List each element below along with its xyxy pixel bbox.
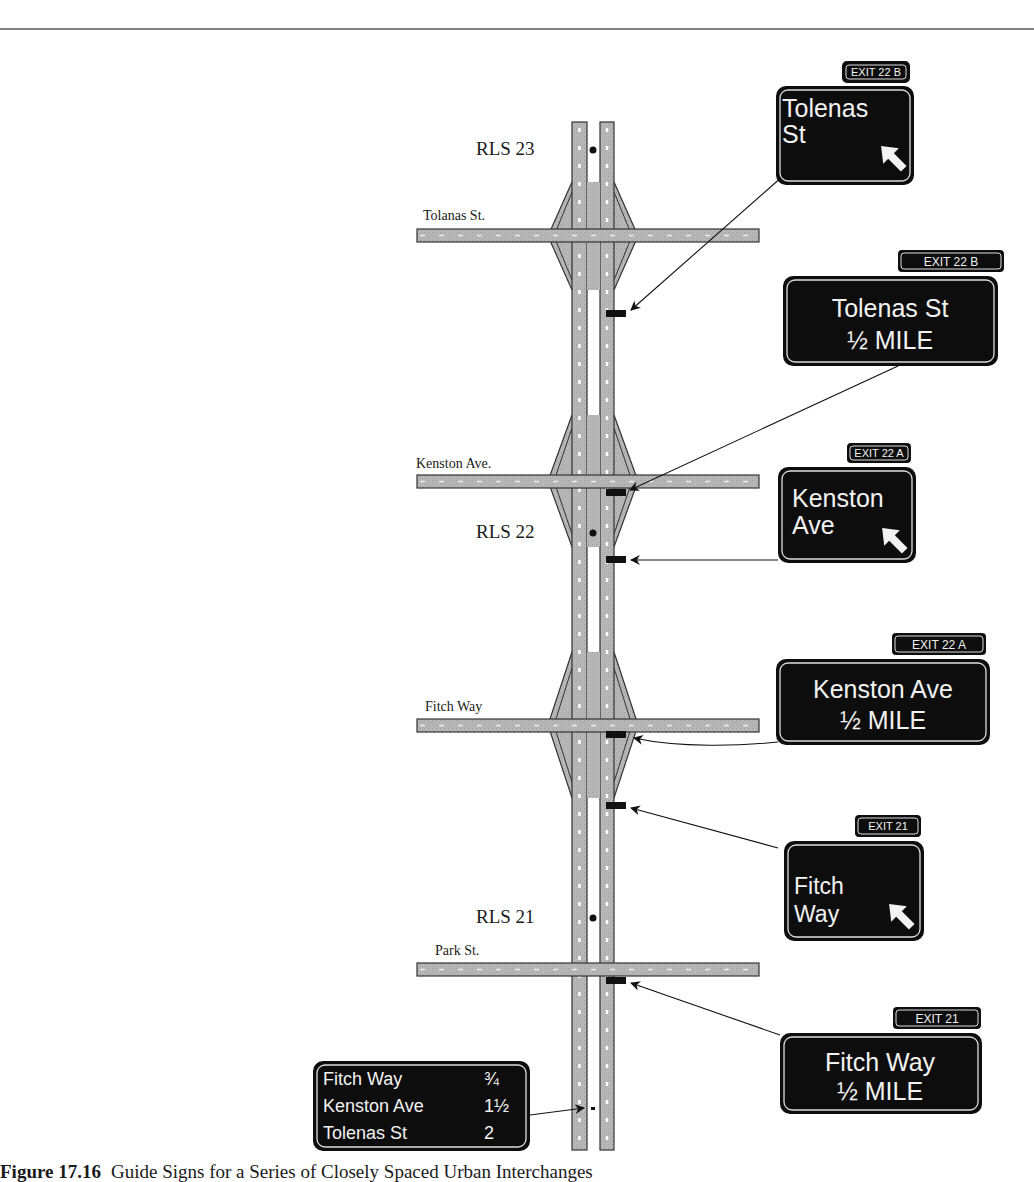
- exit-tab-label: EXIT 22 A: [912, 638, 966, 652]
- label-kenston-ave: Kenston Ave.: [416, 456, 491, 471]
- sign-line-2: St: [782, 120, 806, 148]
- sign-location-marker: [606, 802, 626, 809]
- distance-row-destination: Fitch Way: [323, 1069, 402, 1089]
- cross-street-kenston: [417, 475, 759, 488]
- figure-caption: Figure 17.16Guide Signs for a Series of …: [0, 1161, 593, 1182]
- label-rls-22: RLS 22: [476, 521, 535, 542]
- label-rls-23: RLS 23: [476, 138, 535, 159]
- sign-location-marker: [606, 731, 626, 738]
- sign-location-marker: [591, 1107, 595, 1110]
- cross-street-tolanas: [417, 229, 759, 242]
- distance-row-destination: Tolenas St: [323, 1123, 407, 1143]
- freeway-northbound-roadway: [572, 122, 587, 1150]
- rls-23-marker: [590, 147, 597, 154]
- distance-row-value: 1½: [484, 1096, 509, 1116]
- cross-street-park: [417, 963, 759, 976]
- sign-line-2: ½ MILE: [837, 1077, 923, 1105]
- sign-advance-fitch: EXIT 21 Fitch Way ½ MILE: [780, 1007, 982, 1114]
- exit-tab-label: EXIT 22 B: [924, 255, 978, 269]
- rls-22-marker: [590, 530, 597, 537]
- sign-line-1: Tolenas St: [832, 294, 949, 322]
- sign-line-1: Tolenas: [782, 94, 868, 122]
- sign-location-marker: [606, 556, 626, 563]
- figure-caption-text: Guide Signs for a Series of Closely Spac…: [111, 1161, 593, 1182]
- interchange-diagram: Tolanas St. Kenston Ave. Fitch Way Park …: [0, 0, 1034, 1182]
- cross-street-fitch: [417, 719, 759, 732]
- sign-line-2: ½ MILE: [847, 326, 933, 354]
- exit-tab-label: EXIT 21: [868, 820, 908, 832]
- sign-distance: Fitch Way ¾ Kenston Ave 1½ Tolenas St 2: [313, 1061, 530, 1151]
- sign-line-1: Fitch Way: [825, 1048, 936, 1076]
- sign-advance-tolenas: EXIT 22 B Tolenas St ½ MILE: [783, 250, 1004, 366]
- sign-exit-tolenas-direction: EXIT 22 B Tolenas St: [776, 62, 914, 185]
- rls-21-marker: [590, 915, 597, 922]
- sign-line-2: ½ MILE: [840, 706, 926, 734]
- exit-tab-label: EXIT 21: [915, 1012, 958, 1026]
- sign-exit-fitch-direction: EXIT 21 Fitch Way: [784, 815, 924, 941]
- sign-line-2: Way: [794, 901, 840, 927]
- distance-row-value: ¾: [484, 1069, 500, 1089]
- label-rls-21: RLS 21: [476, 906, 535, 927]
- sign-location-marker: [606, 489, 626, 496]
- distance-row-value: 2: [484, 1123, 494, 1143]
- sign-line-1: Kenston: [792, 484, 884, 512]
- exit-tab-label: EXIT 22 A: [854, 447, 904, 459]
- sign-advance-kenston: EXIT 22 A Kenston Ave ½ MILE: [776, 633, 990, 745]
- sign-location-marker: [606, 310, 626, 317]
- freeway-southbound-roadway: [600, 122, 614, 1150]
- label-fitch-way: Fitch Way: [425, 699, 482, 714]
- distance-row-destination: Kenston Ave: [323, 1096, 424, 1116]
- label-park-st: Park St.: [435, 943, 479, 958]
- exit-tab-label: EXIT 22 B: [851, 66, 901, 78]
- label-tolanas-st: Tolanas St.: [423, 208, 485, 223]
- sign-line-1: Fitch: [794, 873, 844, 899]
- figure-number: Figure 17.16: [0, 1161, 101, 1182]
- sign-location-marker: [606, 977, 626, 984]
- sign-line-2: Ave: [792, 511, 835, 539]
- sign-exit-kenston-direction: EXIT 22 A Kenston Ave: [778, 443, 916, 563]
- sign-line-1: Kenston Ave: [813, 675, 953, 703]
